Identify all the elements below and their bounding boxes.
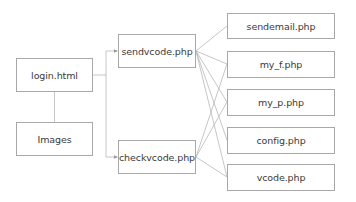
node-label: checkvcode.php	[119, 152, 195, 163]
node-label: login.html	[31, 70, 78, 81]
node-label: my_f.php	[260, 59, 303, 70]
node-config-php: config.php	[227, 127, 335, 154]
node-label: Images	[37, 134, 71, 145]
node-my-p-php: my_p.php	[227, 89, 335, 116]
node-vcode-php: vcode.php	[227, 164, 335, 191]
edge-sendvcode-vcode	[196, 51, 227, 177]
diagram-canvas: login.html Images sendvcode.php checkvco…	[0, 0, 356, 202]
node-sendemail-php: sendemail.php	[227, 13, 335, 39]
node-checkvcode-php: checkvcode.php	[118, 140, 196, 174]
edge-sendvcode-sendemail	[196, 26, 227, 51]
node-label: my_p.php	[258, 97, 304, 108]
edge-checkvcode-vcode	[196, 157, 227, 177]
node-label: sendvcode.php	[121, 46, 192, 57]
node-label: vcode.php	[257, 172, 306, 183]
edge-sendvcode-config	[196, 51, 227, 140]
node-label: sendemail.php	[247, 21, 316, 32]
node-sendvcode-php: sendvcode.php	[118, 34, 196, 68]
node-my-f-php: my_f.php	[227, 51, 335, 78]
node-login-html: login.html	[16, 58, 93, 92]
node-label: config.php	[256, 135, 305, 146]
edge-sendvcode-my_f	[196, 51, 227, 64]
node-images: Images	[16, 122, 93, 156]
